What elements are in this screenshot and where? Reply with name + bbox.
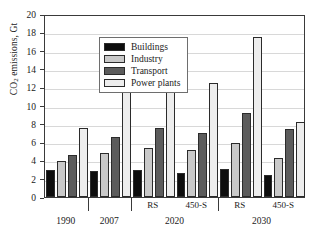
y-axis-tick-label: 8 <box>31 119 36 131</box>
x-axis-scenario-label: 450-S <box>262 199 306 214</box>
bar-transport <box>68 155 77 197</box>
y-axis-tick: 16 <box>0 46 44 58</box>
bar-industry <box>231 143 240 197</box>
y-axis-ticks: 02468101214161820 <box>0 15 44 198</box>
bar-buildings <box>177 173 186 197</box>
y-axis-tick: 0 <box>0 192 44 204</box>
x-axis-scenario-label: RS <box>131 199 175 214</box>
bar-buildings <box>46 170 55 197</box>
bar-power-plants <box>79 128 88 197</box>
bar-transport <box>285 129 294 197</box>
bar-transport <box>242 113 251 197</box>
y-axis-tick-label: 2 <box>31 174 36 186</box>
legend-label: Transport <box>131 65 168 77</box>
y-axis-tick: 14 <box>0 64 44 76</box>
legend-swatch <box>104 79 125 87</box>
y-axis-tick-label: 14 <box>27 64 37 76</box>
legend-swatch <box>104 67 125 75</box>
bar-power-plants <box>296 122 305 197</box>
y-axis-tick-label: 12 <box>27 82 37 94</box>
x-axis-scenario-spacer <box>44 199 88 214</box>
y-axis-tick-label: 10 <box>27 101 37 113</box>
legend-label: Buildings <box>131 41 168 53</box>
bar-power-plants <box>253 37 262 197</box>
legend-item: Industry <box>104 53 180 65</box>
x-axis-year-label: 2020 <box>131 214 218 232</box>
y-axis-tick: 8 <box>0 119 44 131</box>
bar-industry <box>100 153 109 197</box>
bar-buildings <box>90 171 99 197</box>
y-axis-tick-label: 16 <box>27 46 37 58</box>
x-axis-group-separator <box>218 198 219 211</box>
legend-item: Power plants <box>104 77 180 89</box>
y-axis-tick: 18 <box>0 27 44 39</box>
bar-buildings <box>220 169 229 197</box>
bar-group <box>45 16 89 197</box>
bar-transport <box>111 137 120 197</box>
bar-power-plants <box>209 83 218 197</box>
y-axis-tick-label: 20 <box>27 9 37 21</box>
x-axis-year-label: 2007 <box>88 214 132 232</box>
plot-area: BuildingsIndustryTransportPower plants <box>44 15 305 198</box>
x-axis-year-label: 2030 <box>218 214 305 232</box>
bar-group <box>219 16 263 197</box>
legend-swatch <box>104 43 125 51</box>
legend-item: Transport <box>104 65 180 77</box>
x-axis-group-separator <box>131 198 132 211</box>
x-axis-scenario-label: 450-S <box>175 199 219 214</box>
y-axis-tick-label: 6 <box>31 137 36 149</box>
x-axis-scenario-labels: RS450-SRS450-S <box>44 199 305 214</box>
x-axis-year-labels: 1990200720202030 <box>44 214 305 232</box>
bar-transport <box>198 133 207 197</box>
legend-swatch <box>104 55 125 63</box>
y-axis-tick-label: 18 <box>27 27 37 39</box>
y-axis-tick: 2 <box>0 174 44 186</box>
y-axis-tick-label: 4 <box>31 155 36 167</box>
y-axis-tick: 20 <box>0 9 44 21</box>
y-axis-tick: 6 <box>0 137 44 149</box>
y-axis-tick: 10 <box>0 101 44 113</box>
bar-group <box>263 16 307 197</box>
bar-industry <box>144 148 153 197</box>
bar-buildings <box>133 170 142 197</box>
legend-label: Power plants <box>131 77 180 89</box>
bar-buildings <box>264 175 273 197</box>
y-axis-tick: 12 <box>0 82 44 94</box>
x-axis-scenario-label: RS <box>218 199 262 214</box>
y-axis-tick: 4 <box>0 155 44 167</box>
bar-industry <box>57 161 66 197</box>
bar-industry <box>187 150 196 197</box>
legend: BuildingsIndustryTransportPower plants <box>99 37 188 93</box>
legend-item: Buildings <box>104 41 180 53</box>
x-axis-group-separator <box>88 198 89 211</box>
x-axis-scenario-spacer <box>88 199 132 214</box>
legend-label: Industry <box>131 53 163 65</box>
x-axis-year-label: 1990 <box>44 214 88 232</box>
chart-figure: CO2 emissions, Gt 02468101214161820 Buil… <box>0 0 324 248</box>
bar-power-plants <box>122 89 131 197</box>
bar-transport <box>155 128 164 197</box>
y-axis-tick-label: 0 <box>31 192 36 204</box>
bar-industry <box>274 158 283 197</box>
